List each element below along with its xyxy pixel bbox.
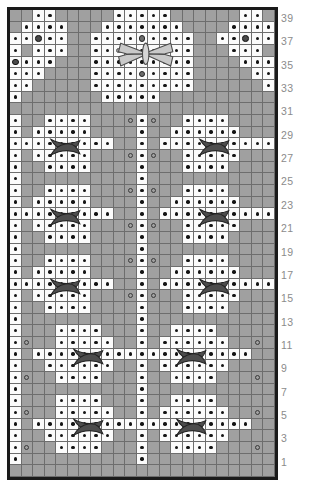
chart-cell[interactable] [171,80,183,92]
chart-cell[interactable] [194,197,206,209]
chart-cell[interactable] [102,279,114,291]
chart-cell[interactable] [125,349,137,361]
chart-cell[interactable] [217,279,229,291]
chart-cell[interactable] [10,267,22,279]
chart-cell[interactable] [68,68,80,80]
chart-cell[interactable] [183,115,195,127]
chart-cell[interactable] [102,465,114,477]
chart-cell[interactable] [217,407,229,419]
chart-cell[interactable] [183,127,195,139]
chart-cell[interactable] [10,150,22,162]
chart-cell[interactable] [79,232,91,244]
chart-cell[interactable] [160,302,172,314]
chart-cell[interactable] [171,22,183,34]
chart-cell[interactable] [160,162,172,174]
chart-cell[interactable] [194,33,206,45]
chart-cell[interactable] [10,80,22,92]
chart-cell[interactable] [229,150,241,162]
chart-cell[interactable] [183,302,195,314]
chart-cell[interactable] [56,173,68,185]
chart-cell[interactable] [252,372,264,384]
chart-cell[interactable] [171,419,183,431]
chart-cell[interactable] [171,302,183,314]
chart-cell[interactable] [91,360,103,372]
chart-cell[interactable] [68,302,80,314]
chart-cell[interactable] [217,185,229,197]
chart-cell[interactable] [206,33,218,45]
chart-cell[interactable] [102,337,114,349]
chart-cell[interactable] [160,103,172,115]
chart-cell[interactable] [263,337,275,349]
chart-cell[interactable] [148,208,160,220]
chart-cell[interactable] [45,197,57,209]
chart-cell[interactable] [160,68,172,80]
chart-cell[interactable] [33,162,45,174]
chart-cell[interactable] [91,162,103,174]
chart-cell[interactable] [91,349,103,361]
chart-cell[interactable] [22,45,34,57]
chart-cell[interactable] [240,454,252,466]
chart-cell[interactable] [33,127,45,139]
chart-cell[interactable] [229,430,241,442]
chart-cell[interactable] [252,68,264,80]
chart-cell[interactable] [252,33,264,45]
chart-cell[interactable] [79,267,91,279]
chart-cell[interactable] [10,115,22,127]
chart-cell[interactable] [125,173,137,185]
chart-cell[interactable] [148,325,160,337]
chart-cell[interactable] [68,185,80,197]
chart-cell[interactable] [194,337,206,349]
chart-cell[interactable] [252,185,264,197]
chart-cell[interactable] [56,220,68,232]
chart-cell[interactable] [56,232,68,244]
chart-cell[interactable] [33,220,45,232]
chart-cell[interactable] [91,279,103,291]
chart-cell[interactable] [217,244,229,256]
chart-cell[interactable] [10,185,22,197]
chart-cell[interactable] [194,419,206,431]
chart-cell[interactable] [137,10,149,22]
chart-cell[interactable] [148,349,160,361]
chart-cell[interactable] [240,68,252,80]
chart-cell[interactable] [171,290,183,302]
chart-cell[interactable] [125,465,137,477]
chart-cell[interactable] [114,407,126,419]
chart-cell[interactable] [148,384,160,396]
chart-cell[interactable] [206,10,218,22]
chart-cell[interactable] [33,267,45,279]
chart-cell[interactable] [102,384,114,396]
chart-cell[interactable] [114,232,126,244]
chart-cell[interactable] [22,185,34,197]
chart-cell[interactable] [45,337,57,349]
chart-cell[interactable] [10,290,22,302]
chart-cell[interactable] [33,45,45,57]
chart-cell[interactable] [56,197,68,209]
chart-cell[interactable] [183,33,195,45]
chart-cell[interactable] [102,80,114,92]
chart-cell[interactable] [56,407,68,419]
chart-cell[interactable] [263,442,275,454]
chart-cell[interactable] [33,325,45,337]
chart-cell[interactable] [91,442,103,454]
chart-cell[interactable] [33,68,45,80]
chart-cell[interactable] [125,127,137,139]
chart-cell[interactable] [229,360,241,372]
chart-cell[interactable] [102,138,114,150]
chart-cell[interactable] [79,314,91,326]
chart-cell[interactable] [10,430,22,442]
chart-cell[interactable] [206,80,218,92]
chart-cell[interactable] [148,45,160,57]
chart-cell[interactable] [91,302,103,314]
chart-cell[interactable] [45,80,57,92]
chart-cell[interactable] [229,45,241,57]
chart-cell[interactable] [22,430,34,442]
chart-cell[interactable] [45,349,57,361]
chart-cell[interactable] [194,290,206,302]
chart-cell[interactable] [194,360,206,372]
chart-cell[interactable] [252,267,264,279]
chart-cell[interactable] [137,208,149,220]
chart-cell[interactable] [125,267,137,279]
chart-cell[interactable] [102,208,114,220]
chart-cell[interactable] [194,45,206,57]
chart-cell[interactable] [45,162,57,174]
